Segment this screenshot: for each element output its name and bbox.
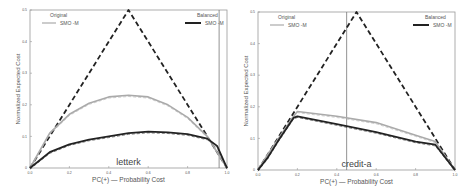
legend-label: SMO -M [288, 22, 307, 28]
chart-credit-a: 0.00.20.40.60.81.000.10.20.30.40.5PC(+) … [238, 0, 476, 191]
y-tick-label: 0 [253, 168, 255, 172]
legend-label: SMO -M [205, 20, 224, 26]
y-tick-label: 0.4 [22, 40, 27, 44]
chart-svg: 0.00.20.40.60.81.000.10.20.30.40.5PC(+) … [238, 0, 476, 191]
legend-label: SMO -M [60, 20, 79, 26]
x-tick-label: 0.4 [334, 173, 339, 177]
x-tick-label: 0.6 [146, 171, 151, 175]
legend-group-label: Balanced [197, 12, 218, 18]
y-tick-label: 0.2 [22, 103, 27, 107]
y-tick-label: 0 [25, 166, 27, 170]
y-tick-label: 0.5 [22, 8, 27, 12]
x-tick-label: 0.8 [185, 171, 190, 175]
x-tick-label: 0.0 [28, 171, 33, 175]
y-tick-label: 0.4 [250, 42, 255, 46]
x-tick-label: 1.0 [453, 173, 458, 177]
y-tick-label: 0.5 [250, 10, 255, 14]
x-tick-label: 0.6 [374, 173, 379, 177]
x-tick-label: 0.2 [67, 171, 72, 175]
x-tick-label: 0.8 [413, 173, 418, 177]
y-axis-label: Normalized Expected Cost [15, 53, 21, 124]
y-tick-label: 0.1 [22, 135, 27, 139]
x-tick-label: 0.4 [106, 171, 111, 175]
x-tick-label: 1.0 [225, 171, 230, 175]
y-axis-label: Normalized Expected Cost [243, 55, 249, 126]
legend-group-label: Original [278, 14, 295, 20]
chart-title: letterk [116, 157, 141, 167]
plot-frame [258, 12, 455, 170]
y-tick-label: 0.2 [250, 105, 255, 109]
x-axis-label: PC(+) — Probability Cost [320, 178, 393, 186]
legend-group-label: Original [50, 12, 67, 18]
y-tick-label: 0.1 [250, 137, 255, 141]
x-tick-label: 0.2 [295, 173, 300, 177]
y-tick-label: 0.3 [250, 73, 255, 77]
x-axis-label: PC(+) — Probability Cost [92, 176, 165, 184]
dashed-trivial-line [258, 12, 455, 170]
chart-title: credit-a [341, 159, 371, 169]
dashed-trivial-line [30, 10, 227, 168]
x-tick-label: 0.0 [256, 173, 261, 177]
y-tick-label: 0.3 [22, 71, 27, 75]
chart-letterk: 0.00.20.40.60.81.000.10.20.30.40.5PC(+) … [0, 0, 238, 191]
chart-svg: 0.00.20.40.60.81.000.10.20.30.40.5PC(+) … [0, 0, 238, 191]
plot-frame [30, 10, 227, 168]
legend-group-label: Balanced [425, 14, 446, 20]
legend-label: SMO -M [433, 22, 452, 28]
